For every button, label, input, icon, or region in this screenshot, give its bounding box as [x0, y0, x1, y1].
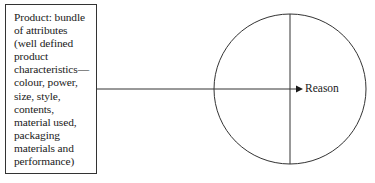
- reason-label: Reason: [305, 82, 339, 95]
- product-attributes-box: Product: bundle of attributes (well defi…: [5, 4, 97, 174]
- product-attributes-text: Product: bundle of attributes (well defi…: [14, 11, 92, 168]
- arrowhead-icon: [296, 86, 303, 93]
